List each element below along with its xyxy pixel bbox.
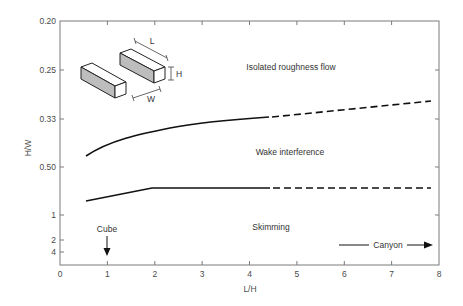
svg-text:W: W bbox=[147, 94, 155, 104]
region-isolated-roughness-label: Isolated roughness flow bbox=[246, 62, 336, 72]
cube-label: Cube bbox=[97, 224, 118, 234]
svg-text:5: 5 bbox=[295, 269, 300, 279]
y-axis-right-ticks bbox=[435, 70, 439, 215]
y-tick-labels: 0.20 0.25 0.33 0.50 1 2 4 bbox=[39, 16, 56, 257]
y-axis-title: H/W bbox=[23, 140, 33, 157]
lower-boundary-solid bbox=[86, 188, 270, 201]
svg-text:L: L bbox=[150, 36, 155, 46]
x-axis-title: L/H bbox=[243, 284, 256, 294]
svg-text:4: 4 bbox=[51, 247, 56, 257]
upper-boundary-dashed bbox=[272, 101, 431, 117]
x-axis-top-ticks bbox=[107, 21, 391, 25]
svg-text:6: 6 bbox=[342, 269, 347, 279]
svg-text:0.20: 0.20 bbox=[39, 16, 56, 26]
svg-text:2: 2 bbox=[51, 235, 56, 245]
svg-text:0.50: 0.50 bbox=[39, 162, 56, 172]
svg-text:0: 0 bbox=[58, 269, 63, 279]
dimension-W: W bbox=[132, 86, 161, 104]
svg-text:0.25: 0.25 bbox=[39, 65, 56, 75]
region-skimming-label: Skimming bbox=[252, 222, 290, 232]
flow-regime-chart: 0 1 2 3 4 5 6 7 8 0.20 0.25 0.33 0.50 1 … bbox=[0, 0, 463, 306]
svg-text:1: 1 bbox=[51, 210, 56, 220]
svg-text:0.33: 0.33 bbox=[39, 114, 56, 124]
svg-text:4: 4 bbox=[247, 269, 252, 279]
x-tick-labels: 0 1 2 3 4 5 6 7 8 bbox=[58, 269, 442, 279]
svg-text:3: 3 bbox=[200, 269, 205, 279]
region-wake-interference-label: Wake interference bbox=[256, 147, 325, 157]
y-axis-ticks bbox=[60, 70, 64, 252]
blocks-diagram: L H W bbox=[81, 36, 182, 104]
svg-text:1: 1 bbox=[105, 269, 110, 279]
svg-text:H: H bbox=[176, 69, 182, 79]
block-left-icon bbox=[81, 63, 126, 98]
dimension-H: H bbox=[168, 67, 182, 80]
svg-text:2: 2 bbox=[152, 269, 157, 279]
cube-arrow-icon bbox=[104, 236, 111, 256]
x-axis-ticks bbox=[107, 261, 391, 265]
svg-text:7: 7 bbox=[389, 269, 394, 279]
canyon-label: Canyon bbox=[373, 240, 403, 250]
upper-boundary-solid bbox=[86, 117, 269, 156]
svg-text:8: 8 bbox=[437, 269, 442, 279]
block-right-icon bbox=[120, 49, 165, 83]
